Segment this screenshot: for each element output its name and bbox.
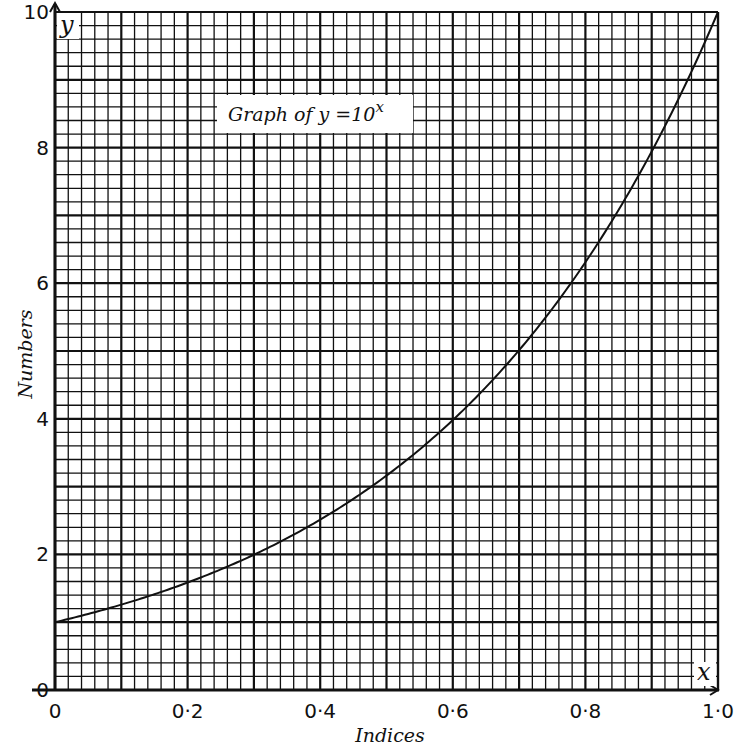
x-axis-label: Indices: [354, 724, 425, 746]
y-tick-label: 0: [36, 678, 49, 702]
chart-title: Graph of y =10x: [228, 98, 384, 125]
x-tick-label: 0·6: [437, 699, 469, 723]
x-tick-label: 0: [49, 699, 62, 723]
y-tick-label: 10: [24, 0, 49, 24]
x-tick-labels: 00·20·40·60·81·0: [49, 699, 734, 723]
y-tick-label: 2: [36, 542, 49, 566]
x-variable-label: x: [697, 658, 711, 686]
x-tick-label: 0·4: [304, 699, 336, 723]
x-tick-label: 0·8: [569, 699, 601, 723]
y-variable-label: y: [59, 11, 74, 39]
y-tick-label: 6: [36, 271, 49, 295]
title-superscript: x: [375, 98, 384, 116]
x-tick-label: 1·0: [702, 699, 734, 723]
y-tick-label: 8: [36, 136, 49, 160]
exponential-graph: Graph of y =10x y x 00·20·40·60·81·0 024…: [0, 0, 735, 748]
y-axis-label: Numbers: [14, 309, 36, 399]
y-tick-label: 4: [36, 407, 49, 431]
x-tick-label: 0·2: [172, 699, 204, 723]
